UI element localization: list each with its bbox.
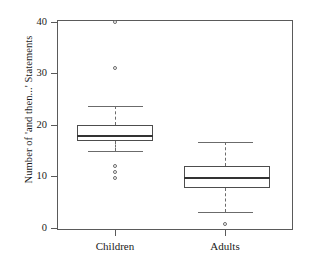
adults-median-line — [184, 177, 270, 179]
y-tick-label-20: 20 — [7, 120, 47, 131]
children-outlier-31 — [113, 66, 117, 70]
children-box — [77, 125, 153, 141]
x-tick-label-adults: Adults — [165, 241, 285, 252]
children-upper-whisker-cap — [88, 106, 143, 107]
adults-lower-whisker-line — [225, 188, 226, 212]
y-tick-label-40: 40 — [7, 17, 47, 28]
y-tick-label-10: 10 — [7, 171, 47, 182]
adults-lower-whisker-cap — [198, 212, 253, 213]
children-upper-whisker-line — [115, 106, 116, 125]
y-tick-label-0: 0 — [7, 223, 47, 234]
adults-outlier-0p8 — [223, 222, 227, 226]
adults-upper-whisker-cap — [198, 142, 253, 143]
children-median-line — [77, 135, 153, 137]
x-tick-mark-adults — [225, 230, 226, 236]
children-lower-whisker-line — [115, 141, 116, 151]
adults-upper-whisker-line — [225, 142, 226, 166]
children-outlier-10p5 — [113, 170, 117, 174]
x-tick-mark-children — [115, 230, 116, 236]
children-outlier-40 — [113, 20, 117, 24]
x-tick-label-children: Children — [55, 241, 175, 252]
children-outlier-9p7 — [113, 176, 117, 180]
children-outlier-12 — [113, 164, 117, 168]
y-tick-label-30: 30 — [7, 68, 47, 79]
boxplot-figure: Number of 'and then...' Statements 0 10 … — [0, 0, 312, 270]
children-lower-whisker-cap — [88, 151, 143, 152]
